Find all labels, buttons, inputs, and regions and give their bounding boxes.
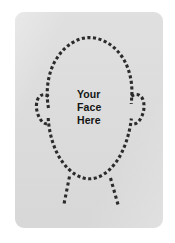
caption-line-2: Face (77, 101, 101, 114)
caption-line-1: Your (77, 88, 101, 101)
placeholder-caption: Your Face Here (77, 88, 101, 128)
photo-placeholder-root: Your Face Here (0, 0, 175, 243)
caption-line-3: Here (77, 114, 101, 127)
